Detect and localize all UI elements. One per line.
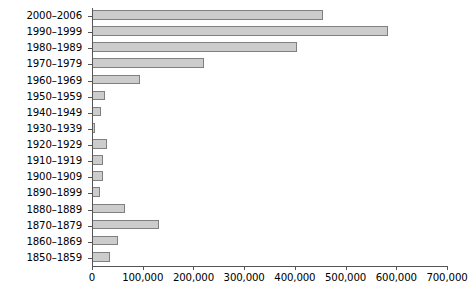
bar-row [92, 24, 447, 40]
bar-row [92, 218, 447, 234]
y-axis-label: 1890–1899 [0, 185, 86, 201]
x-axis-line [92, 266, 447, 267]
y-axis-tick [88, 177, 92, 178]
x-axis-tick-label: 600,000 [376, 272, 417, 283]
bar-row [92, 121, 447, 137]
bar [92, 187, 100, 197]
y-axis-tick [88, 97, 92, 98]
bar [92, 155, 103, 165]
bar [92, 204, 125, 214]
y-axis-tick [88, 81, 92, 82]
y-axis-tick [88, 258, 92, 259]
y-axis-label: 1940–1949 [0, 105, 86, 121]
bar-row [92, 202, 447, 218]
y-axis-label: 1870–1879 [0, 218, 86, 234]
y-axis-tick [88, 32, 92, 33]
y-axis-label: 1970–1979 [0, 56, 86, 72]
x-axis-tick [295, 266, 296, 270]
y-axis-tick [88, 242, 92, 243]
x-axis-tick [143, 266, 144, 270]
x-axis-tick-label: 400,000 [274, 272, 315, 283]
bar [92, 91, 105, 101]
y-axis-label: 1990–1999 [0, 24, 86, 40]
y-axis-label: 1860–1869 [0, 234, 86, 250]
y-axis-label: 1960–1969 [0, 73, 86, 89]
y-axis-line [92, 8, 93, 266]
x-axis-tick [447, 266, 448, 270]
y-axis-tick [88, 145, 92, 146]
y-axis-tick [88, 193, 92, 194]
y-axis-tick [88, 48, 92, 49]
x-axis-tick [346, 266, 347, 270]
bar [92, 171, 103, 181]
x-axis-tick-label: 300,000 [224, 272, 265, 283]
y-axis-label: 1910–1919 [0, 153, 86, 169]
y-axis-tick [88, 113, 92, 114]
x-axis-tick-label: 500,000 [325, 272, 366, 283]
bar [92, 220, 159, 230]
y-axis-label: 1880–1889 [0, 202, 86, 218]
y-axis-tick [88, 210, 92, 211]
bar [92, 10, 323, 20]
bar-row [92, 105, 447, 121]
y-axis-tick [88, 161, 92, 162]
y-axis-tick [88, 64, 92, 65]
bar [92, 58, 204, 68]
y-axis-label: 1950–1959 [0, 89, 86, 105]
bar-row [92, 89, 447, 105]
y-axis-category-labels: 2000–20061990–19991980–19891970–19791960… [0, 8, 86, 266]
y-axis-label: 1980–1989 [0, 40, 86, 56]
bar-row [92, 56, 447, 72]
bar-row [92, 137, 447, 153]
x-axis-tick-label: 200,000 [173, 272, 214, 283]
bars-container [92, 8, 447, 266]
bar-row [92, 250, 447, 266]
y-axis-tick [88, 16, 92, 17]
y-axis-tick [88, 129, 92, 130]
y-axis-label: 1850–1859 [0, 250, 86, 266]
x-axis-tick [244, 266, 245, 270]
x-axis-tick-label: 0 [89, 272, 95, 283]
y-axis-tick [88, 226, 92, 227]
bar-row [92, 8, 447, 24]
bar [92, 42, 297, 52]
y-axis-label: 1930–1939 [0, 121, 86, 137]
x-axis-tick [92, 266, 93, 270]
x-axis-tick [396, 266, 397, 270]
bar [92, 139, 107, 149]
x-axis-tick [193, 266, 194, 270]
bar-row [92, 40, 447, 56]
x-axis-tick-label: 700,000 [426, 272, 467, 283]
bar [92, 252, 110, 262]
bar [92, 107, 101, 117]
y-axis-label: 1920–1929 [0, 137, 86, 153]
y-axis-label: 2000–2006 [0, 8, 86, 24]
bar-row [92, 73, 447, 89]
bar-row [92, 234, 447, 250]
bar-row [92, 153, 447, 169]
bar [92, 26, 388, 36]
y-axis-label: 1900–1909 [0, 169, 86, 185]
x-axis-tick-label: 100,000 [122, 272, 163, 283]
bar-row [92, 185, 447, 201]
bar [92, 236, 118, 246]
bar [92, 75, 140, 85]
bar-row [92, 169, 447, 185]
